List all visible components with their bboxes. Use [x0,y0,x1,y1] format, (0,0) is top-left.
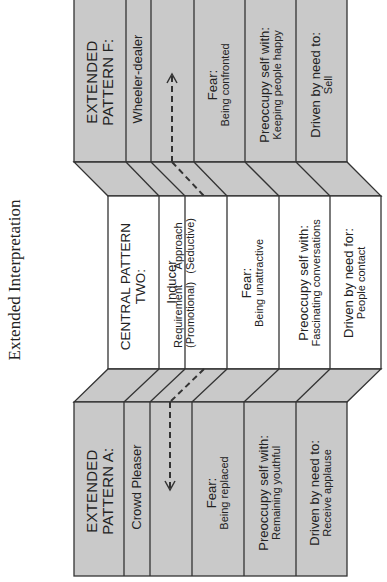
bottom-preoccupy: Preoccupy self with: Remaining youthful [257,418,283,568]
center-header-line2: TWO: [134,212,149,362]
center-approach: Approach (Seductive) [173,216,197,276]
center-header: CENTRAL PATTERN TWO: [119,212,148,362]
top-fear-label: Fear: [206,10,220,160]
top-preoccupy-label: Preoccupy self with: [258,10,272,160]
top-fear-value: Being confronted [220,10,232,160]
top-preoccupy-value: Keeping people happy [272,10,284,160]
bottom-transition [74,369,381,402]
center-requirement-value: (Promotional) [185,288,197,348]
bottom-fear-label: Fear: [205,418,219,568]
top-driven-value: Sell [323,10,335,160]
bottom-driven-value: Receive applause [322,418,334,568]
top-driven-label: Driven by need to: [309,10,323,160]
bottom-driven-label: Driven by need to: [308,418,322,568]
bottom-name: Crowd Pleaser [130,412,144,562]
center-header-line1: CENTRAL PATTERN [119,212,134,362]
center-preoccupy: Preoccupy self with: Fascinating convers… [297,203,323,363]
center-driven: Driven by need for: People contact [342,208,368,358]
center-preoccupy-value: Fascinating conversations [311,203,323,363]
top-header: EXTENDED PATTERN F: [84,7,116,157]
bottom-driven: Driven by need to: Receive applause [308,418,334,568]
center-fear-value: Being unattractive [254,208,266,358]
center-requirement: Requirement (Promotional) [173,288,197,348]
top-driven: Driven by need to: Sell [309,10,335,160]
bottom-header-line2: PATTERN A: [100,416,116,566]
top-transition [74,162,381,196]
bottom-fear: Fear: Being replaced [205,418,231,568]
top-fear: Fear: Being confronted [206,10,232,160]
diagram-title: Extended Interpretation [5,185,25,375]
bottom-header: EXTENDED PATTERN A: [84,416,116,566]
center-preoccupy-label: Preoccupy self with: [297,203,311,363]
center-fear-label: Fear: [240,208,254,358]
bottom-fear-value: Being replaced [219,418,231,568]
top-preoccupy: Preoccupy self with: Keeping people happ… [258,10,284,160]
center-driven-value: People contact [356,208,368,358]
bottom-preoccupy-value: Remaining youthful [271,418,283,568]
center-driven-label: Driven by need for: [342,208,356,358]
bottom-header-line1: EXTENDED [84,416,100,566]
center-approach-value: (Seductive) [185,216,197,276]
bottom-preoccupy-label: Preoccupy self with: [257,418,271,568]
top-name: Wheeler-dealer [131,4,145,154]
center-fear: Fear: Being unattractive [240,208,266,358]
top-header-line2: PATTERN F: [100,7,116,157]
top-header-line1: EXTENDED [84,7,100,157]
